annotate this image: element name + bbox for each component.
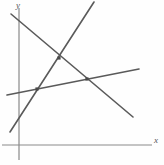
ascending-steep-line	[10, 2, 94, 132]
y-axis-label: y	[16, 1, 20, 10]
intersection-point-top	[57, 56, 60, 59]
ascending-shallow-line	[7, 69, 139, 95]
intersection-point-right	[85, 77, 88, 80]
figure-container: y x	[0, 0, 164, 165]
lines-plot	[0, 0, 164, 165]
x-axis-label: x	[154, 136, 158, 145]
intersection-point-left	[35, 87, 38, 90]
